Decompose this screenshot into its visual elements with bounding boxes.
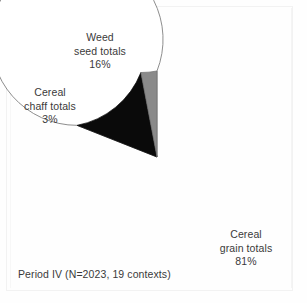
slice-label-grain-line1: Cereal [198,228,294,242]
figure-caption: Period IV (N=2023, 19 contexts) [18,267,171,281]
slice-label-chaff-line1: Cereal [2,86,98,100]
slice-label-chaff-value: 3% [2,113,98,127]
slice-label-cereal-chaff-totals: Cereal chaff totals 3% [2,86,98,127]
slice-label-cereal-grain-totals: Cereal grain totals 81% [198,228,294,269]
slice-label-grain-value: 81% [198,255,294,269]
slice-label-grain-line2: grain totals [198,242,294,256]
slice-label-weed-value: 16% [52,58,148,72]
slice-label-chaff-line2: chaff totals [2,100,98,114]
pie-chart-figure: Weed seed totals 16% Cereal chaff totals… [0,0,307,303]
pie-slices [0,0,163,157]
slice-label-weed-line1: Weed [52,31,148,45]
slice-label-weed-seed-totals: Weed seed totals 16% [52,31,148,72]
slice-label-weed-line2: seed totals [52,45,148,59]
